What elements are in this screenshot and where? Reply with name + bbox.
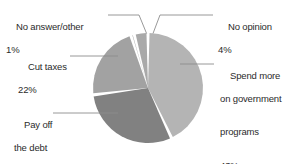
pie-label-no-opinion-text: No opinion: [228, 21, 272, 32]
pie-label-pay-off-the-debt-text-2: the debt: [14, 142, 52, 153]
pie-label-spend-more-text-2: on government: [220, 93, 281, 104]
pie-chart-figure: No answer/other 1% Cut taxes 22% Pay off…: [0, 0, 294, 164]
pie-label-no-opinion-percent: 4%: [218, 44, 272, 55]
pie-label-cut-taxes-text: Cut taxes: [28, 61, 67, 72]
pie-label-pay-off-the-debt-text-1: Pay off: [24, 119, 52, 130]
pie-label-spend-more-percent: 43%: [220, 160, 281, 164]
pie-label-spend-more: Spend more on government programs 43%: [220, 59, 281, 164]
pie-label-spend-more-text-1: Spend more: [230, 70, 280, 81]
leader-line-no-opinion-stem: [153, 15, 160, 34]
pie-label-spend-more-text-3: programs: [220, 126, 281, 137]
pie-label-pay-off-the-debt: Pay off the debt 30%: [14, 108, 52, 164]
pie-label-cut-taxes-percent: 22%: [18, 84, 67, 95]
leader-line-no-answer-other-stem: [139, 15, 147, 34]
pie-slices: [93, 33, 203, 143]
pie-label-no-answer-other-text: No answer/other: [16, 21, 83, 32]
